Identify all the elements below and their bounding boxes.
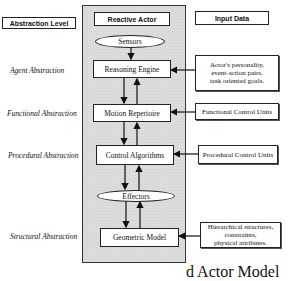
input-functional-data: Functional Control Units xyxy=(195,103,279,120)
input-line: event-action pairs, xyxy=(211,69,263,77)
motion-repertoire-node: Motion Repertoire xyxy=(93,104,171,122)
control-algorithms-label: Control Algorithms xyxy=(106,151,165,160)
reasoning-engine-label: Reasoning Engine xyxy=(105,65,160,74)
effectors-node: Effectors xyxy=(97,190,175,202)
input-line: Procedural Control Units xyxy=(203,151,273,159)
input-line: Actor's personality, xyxy=(210,61,264,69)
input-structural-data: Hierarchical structures, constraints, ph… xyxy=(200,222,281,248)
input-procedural-data: Procedural Control Units xyxy=(198,145,278,164)
sensors-label: Sensors xyxy=(118,37,141,46)
figure-caption: d Actor Model xyxy=(186,263,279,281)
input-line: constraints, xyxy=(224,231,256,239)
control-algorithms-node: Control Algorithms xyxy=(96,145,174,165)
geometric-model-label: Geometric Model xyxy=(113,233,166,242)
input-line: task oriented goals. xyxy=(210,77,264,85)
input-agent-data: Actor's personality, event-action pairs,… xyxy=(195,55,279,91)
sensors-node: Sensors xyxy=(95,35,165,48)
input-line: Hierarchical structures, xyxy=(208,223,273,231)
input-line: Functional Control Units xyxy=(202,108,272,116)
geometric-model-node: Geometric Model xyxy=(100,228,179,247)
motion-repertoire-label: Motion Repertoire xyxy=(104,109,160,118)
effectors-label: Effectors xyxy=(122,192,149,201)
input-line: physical attributes. xyxy=(214,239,267,247)
reasoning-engine-node: Reasoning Engine xyxy=(93,60,171,78)
